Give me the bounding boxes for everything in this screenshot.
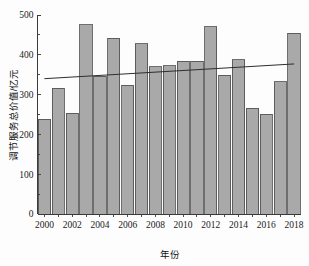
bar-2007 [135,44,147,214]
x-tick-label-2016: 2016 [257,220,276,230]
chart-figure: 0100200300400500 20002002200420062008201… [0,0,309,266]
bar-2001 [52,88,64,214]
bar-2002 [66,113,78,214]
x-tick-label-2014: 2014 [229,220,248,230]
bar-2012 [205,27,217,214]
bar-2006 [122,85,134,214]
x-tick-label-2000: 2000 [35,220,54,230]
bar-2008 [149,67,161,214]
bar-2005 [108,38,120,214]
bar-2017 [274,82,286,214]
x-tick-label-2006: 2006 [118,220,137,230]
y-tick-label-200: 200 [19,130,34,140]
x-tick-label-2012: 2012 [201,220,220,230]
y-axis-title: 调节服务总价值/亿元 [8,69,19,162]
y-tick-label-400: 400 [19,50,34,60]
bar-chart-svg: 0100200300400500 20002002200420062008201… [0,0,309,266]
x-tick-label-2002: 2002 [63,220,82,230]
y-tick-label-100: 100 [19,170,34,180]
x-tick-label-2010: 2010 [174,220,193,230]
bar-2003 [80,25,92,214]
y-tick-label-500: 500 [19,10,34,20]
bar-2010 [177,61,189,214]
bar-2013 [219,75,231,214]
bar-2009 [163,66,175,214]
y-tick-label-300: 300 [19,90,34,100]
bar-2015 [246,108,258,214]
bar-2011 [191,61,203,214]
y-tick-label-0: 0 [29,209,34,219]
x-axis-title: 年份 [160,249,180,260]
x-tick-label-2018: 2018 [285,220,304,230]
x-tick-label-2004: 2004 [90,220,109,230]
bar-2004 [94,76,106,214]
x-tick-label-2008: 2008 [146,220,165,230]
bar-2000 [38,119,50,214]
bar-2018 [288,33,300,214]
bar-2016 [260,114,272,214]
bar-2014 [232,60,244,214]
